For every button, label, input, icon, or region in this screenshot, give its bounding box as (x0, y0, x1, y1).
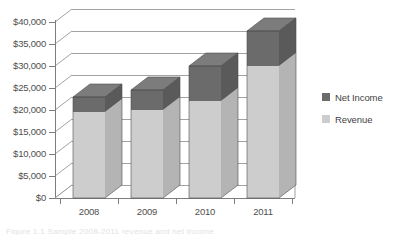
bar-group-2008 (73, 84, 122, 198)
bar-2010-revenue-front (189, 101, 221, 198)
legend-item-revenue[interactable]: Revenue (322, 108, 410, 130)
legend-label-net-income: Net Income (335, 92, 383, 103)
x-axis-label-2010: 2010 (185, 206, 225, 217)
depth-connector-20000 (55, 97, 72, 110)
bar-2011-revenue-front (247, 66, 279, 198)
depth-connector-40000 (55, 9, 72, 22)
depth-connector-30000 (55, 53, 72, 66)
x-axis-label-2011: 2011 (243, 206, 283, 217)
bar-2008-revenue-front (73, 112, 105, 198)
x-axis-label-group: 2008 2009 2010 2011 (0, 206, 300, 222)
x-axis-label-2009: 2009 (127, 206, 167, 217)
bar-group-2011 (247, 18, 296, 198)
depth-connector-25000 (55, 75, 72, 88)
bar-2009-revenue-side (163, 97, 180, 198)
legend-swatch-net-income-icon (322, 93, 330, 101)
bar-2008-revenue-side (105, 99, 122, 198)
bar-2009-netincome-front (131, 90, 163, 110)
legend-swatch-revenue-icon (322, 115, 330, 123)
chart-legend: Net Income Revenue (322, 86, 410, 130)
chart-container: $40,000 $35,000 $30,000 $25,000 $20,000 … (0, 0, 412, 236)
caption-cutoff: Figure 1.1 Sample 2008-2011 revenue and … (6, 227, 266, 235)
bar-2010-revenue-side (221, 88, 238, 198)
depth-connector-10000 (55, 141, 72, 154)
depth-connector-35000 (55, 31, 72, 44)
x-axis-label-2008: 2008 (69, 206, 109, 217)
bar-group-2010 (189, 53, 238, 198)
depth-connector-15000 (55, 119, 72, 132)
legend-label-revenue: Revenue (335, 114, 372, 125)
axis-depth-connector-group (55, 9, 72, 198)
legend-item-net-income[interactable]: Net Income (322, 86, 410, 108)
bar-2011-revenue-side (279, 53, 296, 198)
bar-2009-revenue-front (131, 110, 163, 198)
x-axis-tick-group (60, 198, 292, 204)
depth-connector-5000 (55, 163, 72, 176)
bar-group-2009 (131, 77, 180, 198)
bar-2008-netincome-front (73, 97, 105, 112)
bar-2011-netincome-front (247, 31, 279, 66)
bar-2010-netincome-front (189, 66, 221, 101)
y-axis-tick-group (49, 22, 55, 198)
